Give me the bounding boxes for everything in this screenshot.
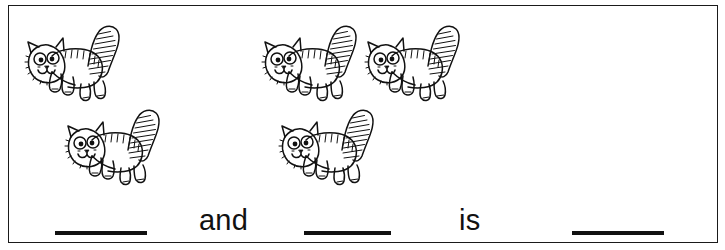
picture-area	[0, 0, 725, 192]
kitten-icon	[358, 14, 468, 102]
kitten-icon	[255, 14, 365, 102]
sentence-row: and is	[0, 192, 725, 243]
kitten-icon	[18, 14, 128, 102]
answer-blank-2[interactable]	[304, 231, 391, 235]
word-is: is	[459, 206, 480, 235]
left-group	[0, 0, 250, 192]
word-and: and	[199, 206, 248, 235]
right-group	[238, 0, 498, 192]
answer-blank-3[interactable]	[572, 231, 664, 235]
answer-blank-1[interactable]	[55, 231, 147, 235]
kitten-icon	[272, 98, 382, 186]
kitten-icon	[58, 98, 168, 186]
worksheet-page: and is	[0, 0, 725, 250]
